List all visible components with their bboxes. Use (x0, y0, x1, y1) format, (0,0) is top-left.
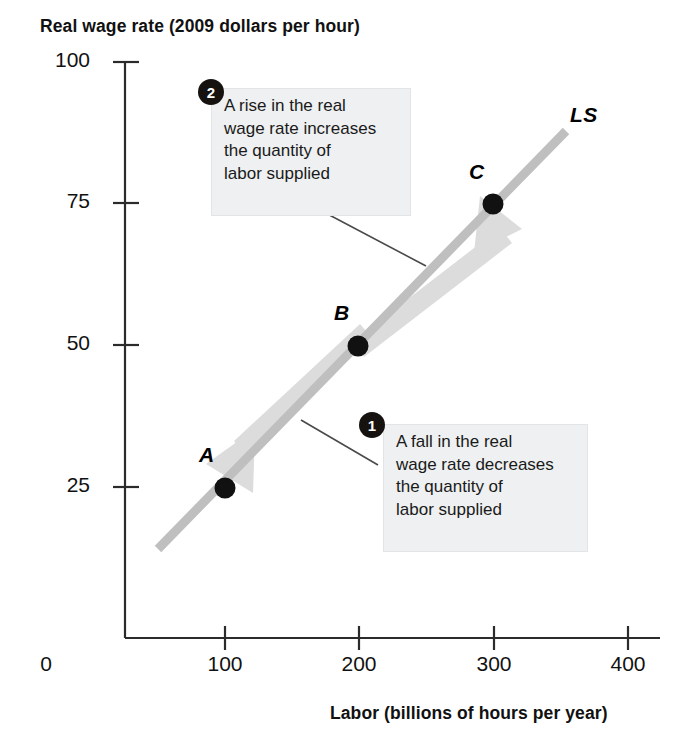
data-point-a[interactable] (215, 478, 236, 499)
x-tick-label-100: 100 (195, 652, 255, 676)
x-tick-label-400: 400 (598, 652, 658, 676)
y-tick-label-75: 75 (30, 189, 90, 213)
callout-1-badge: 1 (359, 412, 385, 438)
x-axis-title: Labor (billions of hours per year) (330, 703, 608, 724)
data-point-label-b: B (334, 301, 349, 325)
callout-2-badge: 2 (198, 79, 224, 105)
callout-2-text: A rise in the real wage rate increases t… (224, 95, 400, 185)
x-tick-label-300: 300 (464, 652, 524, 676)
x-tick-label-200: 200 (329, 652, 389, 676)
arrow-up-right-icon (352, 196, 522, 357)
ls-curve-label: LS (570, 103, 598, 127)
y-tick-label-25: 25 (30, 473, 90, 497)
data-point-label-a: A (199, 443, 214, 467)
data-point-c[interactable] (483, 194, 504, 215)
callout-1-text: A fall in the real wage rate decreases t… (396, 431, 577, 521)
callout-2-leader-line (318, 209, 426, 266)
y-tick-label-100: 100 (30, 48, 90, 72)
origin-label: 0 (16, 652, 76, 676)
labor-supply-chart: Real wage rate (2009 dollars per hour) (0, 0, 676, 741)
data-point-label-c: C (469, 160, 484, 184)
y-tick-label-50: 50 (30, 331, 90, 355)
data-point-b[interactable] (348, 336, 369, 357)
callout-box-2: A rise in the real wage rate increases t… (211, 88, 411, 216)
callout-box-1: A fall in the real wage rate decreases t… (383, 424, 588, 552)
